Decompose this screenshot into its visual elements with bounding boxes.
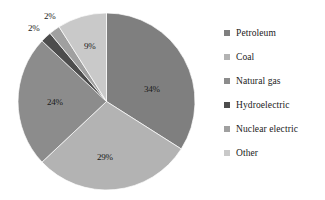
- slice-value-label: 9%: [84, 41, 96, 51]
- legend-item-label: Natural gas: [236, 76, 281, 86]
- legend-item-label: Coal: [236, 52, 254, 62]
- pie-plot-area: 34%29%24%2%2%9%: [0, 0, 210, 200]
- slice-value-label: 2%: [44, 11, 56, 21]
- legend-item-label: Petroleum: [236, 28, 276, 38]
- chart-legend: PetroleumCoalNatural gasHydroelectricNuc…: [224, 21, 325, 181]
- legend-item[interactable]: Nuclear electric: [224, 117, 325, 141]
- legend-item[interactable]: Natural gas: [224, 69, 325, 93]
- legend-item-label: Nuclear electric: [236, 124, 298, 134]
- legend-swatch-icon: [224, 30, 230, 36]
- legend-swatch-icon: [224, 102, 230, 108]
- legend-item[interactable]: Other: [224, 141, 325, 165]
- legend-item-label: Other: [236, 148, 258, 158]
- slice-value-label: 2%: [28, 23, 40, 33]
- slice-value-label: 24%: [47, 97, 63, 107]
- slice-value-label: 29%: [97, 152, 113, 162]
- legend-item[interactable]: Coal: [224, 45, 325, 69]
- legend-swatch-icon: [224, 150, 230, 156]
- legend-swatch-icon: [224, 126, 230, 132]
- slice-value-label: 34%: [144, 84, 160, 94]
- pie-slices-group: [18, 13, 195, 190]
- legend-item[interactable]: Petroleum: [224, 21, 325, 45]
- legend-swatch-icon: [224, 54, 230, 60]
- legend-item[interactable]: Hydroelectric: [224, 93, 325, 117]
- pie-chart-figure: 34%29%24%2%2%9% PetroleumCoalNatural gas…: [0, 0, 325, 200]
- legend-swatch-icon: [224, 78, 230, 84]
- legend-item-label: Hydroelectric: [236, 100, 290, 110]
